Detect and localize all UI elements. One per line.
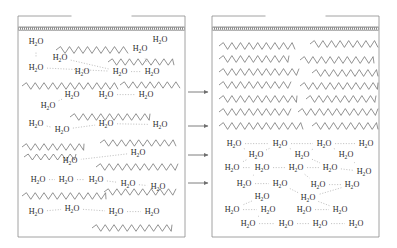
water-molecules-group: H2OH2OH2OH2OH2OH2OH2OH2OH2OH2OH2OH2OH2OH… xyxy=(225,139,374,229)
hydrocarbon-chain xyxy=(312,70,378,77)
water-molecule-label: H2O xyxy=(273,139,288,149)
hydrocarbon-chain xyxy=(219,43,295,50)
water-molecule-label: H2O xyxy=(333,205,348,215)
hydrogen-bond xyxy=(252,175,254,176)
water-molecule-label: H2O xyxy=(139,90,154,100)
water-molecule-label: H2O xyxy=(237,179,252,189)
hydrocarbon-chain xyxy=(219,96,297,103)
hydrogen-bond xyxy=(334,149,336,150)
water-molecule-label: H2O xyxy=(29,37,44,47)
water-molecule-label: H2O xyxy=(249,150,264,160)
hydrocarbon-chain xyxy=(219,56,289,63)
hydrocarbon-chain xyxy=(92,225,172,232)
hydrocarbon-chain xyxy=(310,41,378,48)
hydrogen-bond xyxy=(257,216,259,217)
water-molecule-label: H2O xyxy=(65,90,80,100)
water-molecule-label: H2O xyxy=(75,67,90,77)
water-molecule-label: H2O xyxy=(357,167,372,177)
hydrogen-bond xyxy=(47,210,61,211)
water-molecule-label: H2O xyxy=(41,101,56,111)
hydrocarbon-chain xyxy=(120,82,180,88)
water-molecule-label: H2O xyxy=(65,204,80,214)
water-molecule-label: H2O xyxy=(279,219,294,229)
hydrocarbon-chain xyxy=(219,82,291,89)
hydrogen-bond xyxy=(312,149,314,150)
hydrocarbon-chain xyxy=(22,144,84,151)
water-molecule-label: H2O xyxy=(349,219,364,229)
hydrogen-bond xyxy=(290,149,292,150)
hydrogen-bond xyxy=(318,201,329,205)
hydrogen-bond xyxy=(139,185,147,186)
hydrogen-bond xyxy=(242,201,252,205)
hydrocarbon-chain xyxy=(219,123,303,130)
hydrocarbon-chain xyxy=(22,193,106,200)
hatched-interface-hatching xyxy=(19,27,185,30)
hydrogen-bond xyxy=(107,181,117,182)
water-molecule-label: H2O xyxy=(59,175,74,185)
water-molecule-label: H2O xyxy=(29,63,44,73)
water-molecules-group: H2OH2OH2OH2OH2OH2OH2OH2OH2OH2OH2OH2OH2OH… xyxy=(29,35,168,217)
water-molecule-label: H2O xyxy=(153,35,168,45)
hydrocarbon-chain xyxy=(300,83,378,90)
water-molecule-label: H2O xyxy=(153,120,168,130)
water-molecule-label: H2O xyxy=(323,163,338,173)
hydrocarbon-chain xyxy=(300,57,374,64)
water-molecule-label: H2O xyxy=(255,192,270,202)
water-molecule-label: H2O xyxy=(225,205,240,215)
hydrocarbon-chain xyxy=(306,96,376,103)
hydrocarbon-chain xyxy=(219,69,299,76)
water-molecule-label: H2O xyxy=(301,193,316,203)
hydrogen-bond xyxy=(266,148,270,150)
panels-layer: H2OH2OH2OH2OH2OH2OH2OH2OH2OH2OH2OH2OH2OH… xyxy=(18,16,379,237)
hydrogen-bond xyxy=(81,154,127,159)
water-molecule-label: H2O xyxy=(241,219,256,229)
water-molecule-label: H2O xyxy=(151,182,166,192)
hydrogen-bond xyxy=(312,159,320,163)
water-molecule-label: H2O xyxy=(261,205,276,215)
water-molecule-label: H2O xyxy=(99,90,114,100)
water-molecule-label: H2O xyxy=(99,119,114,129)
water-molecule-label: H2O xyxy=(297,205,312,215)
water-molecule-label: H2O xyxy=(121,179,136,189)
hydrocarbon-chain xyxy=(100,140,176,146)
hydrocarbon-chain xyxy=(96,164,178,171)
water-molecule-label: H2O xyxy=(29,119,44,129)
hydrocarbon-chain xyxy=(312,123,378,130)
hydrocarbon-chain xyxy=(22,83,118,90)
hydrogen-bond xyxy=(290,189,298,193)
water-molecule-label: H2O xyxy=(53,53,68,63)
water-molecule-label: H2O xyxy=(133,44,148,54)
hydrogen-bond xyxy=(83,209,105,211)
water-molecule-label: H2O xyxy=(131,148,146,158)
hydrogen-bond xyxy=(242,160,247,163)
water-molecule-label: H2O xyxy=(31,175,46,185)
water-molecule-label: H2O xyxy=(289,163,304,173)
water-molecule-label: H2O xyxy=(113,67,128,77)
hydrogen-bond xyxy=(58,99,62,101)
hatched-interface-hatching xyxy=(213,27,379,30)
reaction-arrows-group xyxy=(188,92,208,183)
hydrogen-bond xyxy=(244,149,246,150)
water-molecule-label: H2O xyxy=(227,139,242,149)
hydrogen-bond xyxy=(341,169,353,170)
water-molecule-label: H2O xyxy=(273,179,288,189)
hydrogen-bond xyxy=(47,126,52,127)
water-molecule-label: H2O xyxy=(313,219,328,229)
membrane-hydration-diagram: H2OH2OH2OH2OH2OH2OH2OH2OH2OH2OH2OH2OH2OH… xyxy=(0,0,397,248)
hydrogen-bond xyxy=(73,125,95,128)
panel-disordered-state: H2OH2OH2OH2OH2OH2OH2OH2OH2OH2OH2OH2OH2OH… xyxy=(18,16,185,237)
figure-canvas: H2OH2OH2OH2OH2OH2OH2OH2OH2OH2OH2OH2OH2OH… xyxy=(0,0,397,248)
water-molecule-label: H2O xyxy=(89,175,104,185)
water-molecule-label: H2O xyxy=(359,139,374,149)
hydrocarbon-chains-group xyxy=(219,41,378,130)
panel-ordered-state: H2OH2OH2OH2OH2OH2OH2OH2OH2OH2OH2OH2OH2OH… xyxy=(212,16,379,237)
hydrogen-bond xyxy=(305,174,310,178)
hydrogen-bond xyxy=(117,124,149,125)
water-molecule-label: H2O xyxy=(109,207,124,217)
water-molecule-label: H2O xyxy=(295,150,310,160)
water-molecule-label: H2O xyxy=(317,139,332,149)
water-molecule-label: H2O xyxy=(339,150,354,160)
water-molecule-label: H2O xyxy=(225,163,240,173)
hydrocarbon-chain xyxy=(108,59,174,65)
panel-frame xyxy=(212,16,379,237)
